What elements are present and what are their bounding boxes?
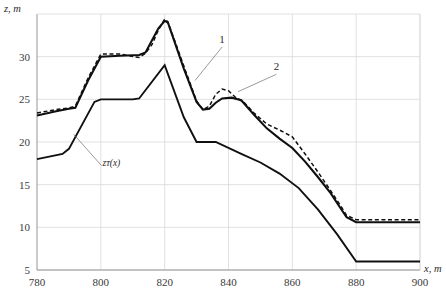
y-tick-label: 15: [19, 179, 31, 191]
x-tick-label: 860: [284, 276, 301, 288]
x-tick-label: 900: [412, 276, 429, 288]
x-tick-label: 780: [29, 276, 46, 288]
y-axis-title: z, m: [3, 3, 21, 14]
annotation-label: 1: [219, 33, 225, 45]
annotation-label: 2: [274, 60, 280, 72]
y-tick-label: 5: [25, 264, 31, 276]
chart-figure: 780800820840860880900 51015202530 12zᴛ(x…: [0, 0, 446, 303]
annotation-label: zᴛ(x): [101, 158, 120, 169]
x-tick-label: 840: [220, 276, 237, 288]
x-tick-label: 880: [348, 276, 365, 288]
x-tick-label: 820: [156, 276, 173, 288]
y-tick-label: 20: [19, 136, 31, 148]
y-tick-label: 10: [19, 221, 31, 233]
x-tick-label: 800: [93, 276, 110, 288]
y-tick-label: 30: [19, 51, 31, 63]
y-tick-label: 25: [19, 93, 31, 105]
line-chart: 780800820840860880900 51015202530 12zᴛ(x…: [0, 0, 446, 303]
x-axis-title: x, m: [423, 263, 442, 274]
